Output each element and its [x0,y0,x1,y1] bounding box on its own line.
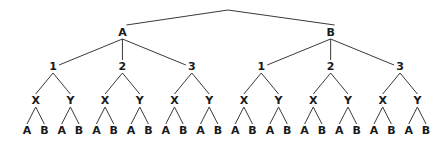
edge [348,107,357,124]
edge [174,73,191,94]
leaf-node-a: A [266,124,275,137]
node-1: 1 [257,60,265,73]
leaf-node-b: B [387,124,395,137]
node-y: Y [412,94,422,107]
node-y: Y [65,94,75,107]
edge [70,107,79,124]
edge [105,73,122,94]
edge [105,107,114,124]
node-x: X [309,94,318,107]
edge [53,73,70,94]
node-b: B [326,26,334,39]
edge [313,73,330,94]
leaf-node-b: B [110,124,118,137]
leaf-node-b: B [214,124,222,137]
leaf-node-b: B [40,124,48,137]
edge [313,107,322,124]
node-y: Y [135,94,145,107]
edge [201,107,210,124]
node-x: X [170,94,179,107]
edge [374,107,383,124]
edge [383,73,400,94]
root-edge [126,10,228,25]
node-2: 2 [119,60,127,73]
leaf-node-b: B [422,124,430,137]
leaf-node-a: A [231,124,240,137]
node-y: Y [204,94,214,107]
leaf-node-a: A [162,124,171,137]
leaf-node-b: B [283,124,291,137]
edge [36,73,53,94]
leaf-node-a: A [300,124,309,137]
edge [261,73,278,94]
edge [383,107,392,124]
edge [409,107,418,124]
edge [267,39,330,65]
edge [131,107,140,124]
node-a: A [118,26,127,39]
edge [417,107,426,124]
edge [96,107,105,124]
leaf-node-b: B [318,124,326,137]
edge [166,107,175,124]
tree-diagram: ABXABY1ABXABY2ABXABY3AABXABY1ABXABY2ABXA… [0,0,447,148]
node-x: X [31,94,40,107]
node-y: Y [274,94,284,107]
leaf-node-b: B [179,124,187,137]
edge [400,73,417,94]
leaf-node-a: A [127,124,136,137]
leaf-node-a: A [370,124,379,137]
leaf-node-a: A [404,124,413,137]
edge [27,107,36,124]
leaf-node-a: A [335,124,344,137]
edge [244,73,261,94]
leaf-node-a: A [23,124,32,137]
edge [36,107,45,124]
leaf-node-b: B [144,124,152,137]
edge [235,107,244,124]
edge [192,73,209,94]
edge [339,107,348,124]
edge [279,107,288,124]
root-edge [228,10,335,25]
edge [305,107,314,124]
leaf-node-b: B [352,124,360,137]
edge [122,73,139,94]
node-3: 3 [396,60,404,73]
edge [244,107,253,124]
node-3: 3 [188,60,196,73]
edge [270,107,279,124]
leaf-node-a: A [57,124,66,137]
node-1: 1 [49,60,57,73]
leaf-node-b: B [75,124,83,137]
leaf-node-a: A [92,124,101,137]
edge [174,107,183,124]
edge [331,73,348,94]
node-x: X [378,94,387,107]
edge [62,107,71,124]
edge [140,107,149,124]
node-x: X [240,94,249,107]
edge [209,107,218,124]
edge [331,39,394,65]
leaf-node-a: A [196,124,205,137]
edge [59,39,122,65]
edge [122,39,185,65]
node-x: X [101,94,110,107]
leaf-node-b: B [248,124,256,137]
node-y: Y [343,94,353,107]
node-2: 2 [327,60,335,73]
